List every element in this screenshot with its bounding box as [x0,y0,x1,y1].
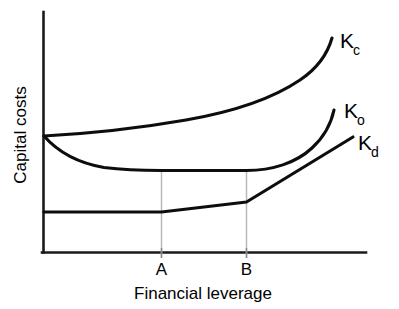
series-label-ko-subscript: o [357,112,365,128]
curve-kd [44,137,353,212]
series-label-kc-base: K [340,29,354,52]
x-tick-label-b: B [241,260,252,279]
series-label-ko-base: K [344,99,358,122]
y-axis-title: Capital costs [11,86,30,183]
x-tick-label-a: A [156,260,168,279]
series-label-kd: K d [358,131,379,160]
series-label-kc: K c [340,29,360,58]
curve-kc [44,38,332,136]
series-label-kd-subscript: d [371,144,379,160]
x-axis-title: Financial leverage [134,284,272,303]
series-label-ko: K o [344,99,365,128]
series-label-kc-subscript: c [353,42,360,58]
series-label-kd-base: K [358,131,372,154]
chart-figure: K c K o K d A B Financial leverage Capit… [0,0,399,309]
capital-cost-leverage-chart: K c K o K d A B Financial leverage Capit… [0,0,399,309]
